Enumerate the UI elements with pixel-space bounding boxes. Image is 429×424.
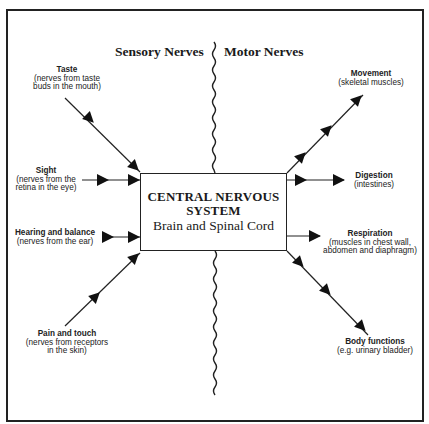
cns-title-line1: CENTRAL NERVOUS	[148, 190, 280, 204]
label-body-functions: Body functions (e.g. urinary bladder)	[337, 338, 413, 355]
arrow-body-functions	[287, 251, 370, 335]
label-sight: Sight (nerves from the retina in the eye…	[16, 167, 77, 193]
label-movement: Movement (skeletal muscles)	[338, 70, 404, 87]
arrow-pain	[65, 249, 143, 326]
label-respiration-desc-2: abdomen and diaphragm)	[323, 247, 417, 256]
sensory-nerves-heading: Sensory Nerves	[115, 44, 204, 60]
motor-nerves-heading: Motor Nerves	[224, 44, 304, 60]
label-sight-desc-2: retina in the eye)	[16, 184, 77, 193]
divider-wavy-line-bottom	[214, 251, 217, 395]
arrow-respiration	[287, 230, 321, 242]
arrow-taste	[65, 98, 143, 175]
label-body-functions-desc-1: (e.g. urinary bladder)	[337, 347, 413, 356]
cns-subtitle: Brain and Spinal Cord	[153, 218, 274, 234]
label-respiration: Respiration (muscles in chest wall, abdo…	[323, 230, 417, 256]
label-digestion-desc-1: (intestines)	[354, 181, 394, 190]
central-nervous-system-box: CENTRAL NERVOUS SYSTEM Brain and Spinal …	[140, 173, 287, 251]
label-pain-desc-2: in the skin)	[26, 347, 108, 356]
label-movement-desc-1: (skeletal muscles)	[338, 79, 404, 88]
label-digestion: Digestion (intestines)	[354, 172, 394, 189]
arrow-hearing	[102, 231, 140, 243]
label-hearing: Hearing and balance (nerves from the ear…	[15, 229, 95, 246]
label-taste-desc-2: buds in the mouth)	[33, 83, 101, 92]
arrow-sight	[82, 174, 140, 186]
arrow-movement	[287, 91, 366, 173]
label-pain-touch: Pain and touch (nerves from receptors in…	[26, 330, 108, 356]
cns-title-line2: SYSTEM	[186, 204, 241, 218]
arrow-digestion	[287, 174, 345, 186]
divider-wavy-line-top	[213, 42, 216, 173]
label-hearing-desc-1: (nerves from the ear)	[15, 238, 95, 247]
label-taste: Taste (nerves from taste buds in the mou…	[33, 66, 101, 92]
